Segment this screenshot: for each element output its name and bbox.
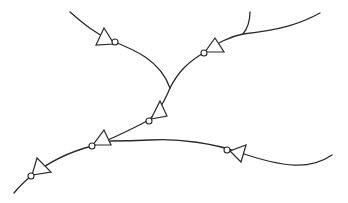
wires-group — [14, 12, 332, 193]
triangle-icon — [205, 38, 224, 52]
inverters-group — [28, 28, 246, 179]
triangle-icon — [96, 28, 114, 45]
inv-5-inverter-icon — [28, 158, 51, 179]
wire-top-right-long — [170, 13, 320, 88]
triangle-icon — [230, 145, 246, 162]
wire-top-right-short — [243, 12, 250, 34]
wire-right-lower — [110, 140, 332, 166]
inverter-network-diagram — [0, 0, 348, 203]
inv-2-inverter-icon — [201, 38, 224, 56]
bubble-icon — [89, 143, 95, 149]
bubble-icon — [146, 118, 152, 124]
inv-6-inverter-icon — [224, 145, 246, 162]
triangle-icon — [151, 101, 167, 119]
wire-top-left — [70, 12, 170, 88]
triangle-icon — [32, 158, 51, 175]
bubble-icon — [224, 147, 230, 153]
bubble-icon — [201, 50, 207, 56]
bubble-icon — [112, 39, 118, 45]
bubble-icon — [28, 173, 34, 179]
inv-4-inverter-icon — [89, 130, 111, 149]
triangle-icon — [93, 130, 111, 145]
inv-3-inverter-icon — [146, 101, 167, 124]
inv-1-inverter-icon — [96, 28, 118, 45]
